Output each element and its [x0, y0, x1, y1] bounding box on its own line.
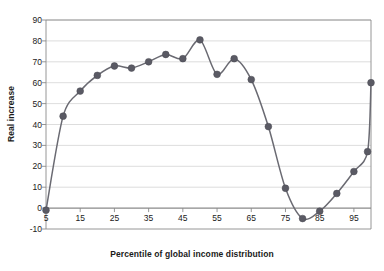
- chart-container: Real increase -100102030405060708090 515…: [0, 0, 384, 271]
- x-axis-title: Percentile of global income distribution: [0, 249, 384, 259]
- data-point-marker: [248, 76, 255, 83]
- data-point-marker: [368, 79, 375, 86]
- data-point-marker: [43, 207, 50, 214]
- gridlines: [46, 20, 371, 229]
- data-point-marker: [111, 63, 118, 70]
- data-point-marker: [316, 208, 323, 215]
- data-point-marker: [128, 65, 135, 72]
- data-point-marker: [60, 113, 67, 120]
- data-point-marker: [265, 123, 272, 130]
- data-point-marker: [364, 148, 371, 155]
- data-point-marker: [299, 215, 306, 222]
- data-point-marker: [179, 55, 186, 62]
- data-point-marker: [77, 88, 84, 95]
- data-point-marker: [162, 51, 169, 58]
- data-point-marker: [145, 58, 152, 65]
- data-point-marker: [350, 168, 357, 175]
- data-point-marker: [282, 185, 289, 192]
- data-point-marker: [333, 190, 340, 197]
- data-point-marker: [197, 36, 204, 43]
- data-point-marker: [231, 55, 238, 62]
- data-point-marker: [94, 72, 101, 79]
- data-point-marker: [214, 71, 221, 78]
- plot-area: [0, 0, 384, 271]
